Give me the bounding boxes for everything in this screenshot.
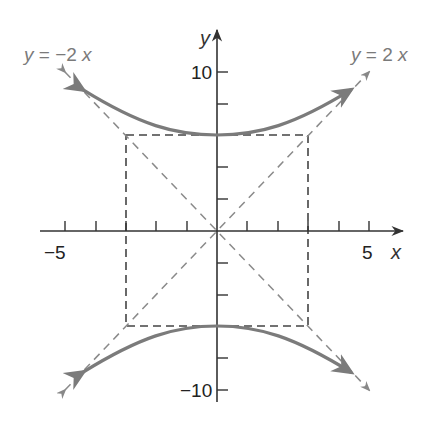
y-axis-label: y bbox=[198, 27, 211, 49]
y-tick-label-min: −10 bbox=[180, 380, 212, 401]
hyperbola-plot: −5 5 10 −10 x y y = −2 x y = 2 x bbox=[0, 0, 426, 434]
x-tick-label-min: −5 bbox=[44, 242, 66, 263]
asymptote-label-pos: y = 2 x bbox=[349, 44, 409, 65]
x-axis-label: x bbox=[390, 241, 402, 263]
x-tick-label-max: 5 bbox=[362, 242, 373, 263]
y-tick-label-max: 10 bbox=[191, 62, 212, 83]
asymptote-label-neg: y = −2 x bbox=[22, 44, 93, 65]
